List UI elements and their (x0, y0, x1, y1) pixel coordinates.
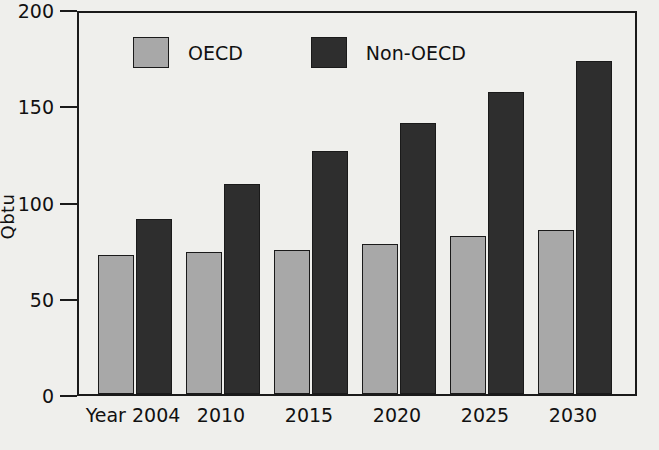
y-axis-tick-label: 0 (2, 387, 54, 406)
x-axis-tick-label: 2015 (285, 404, 333, 426)
bar-non-oecd-2025 (488, 92, 524, 394)
bar-oecd-2025 (450, 236, 486, 394)
x-axis-tick-label: 2030 (549, 404, 597, 426)
y-axis-tick (60, 395, 77, 397)
x-axis-tick-label: 2025 (461, 404, 509, 426)
y-axis-tick (60, 203, 77, 205)
bar-chart: 050100150200 Qbtu OECD Non-OECD Year 200… (0, 0, 659, 450)
legend-swatch-oecd (133, 37, 169, 68)
bar-non-oecd-year-2004 (136, 219, 172, 394)
x-axis-tick-label: 2020 (373, 404, 421, 426)
y-axis-tick (60, 299, 77, 301)
x-axis-tick-label: Year 2004 (86, 404, 181, 426)
y-axis-title: Qbtu (0, 193, 18, 239)
bar-non-oecd-2015 (312, 151, 348, 394)
bar-non-oecd-2010 (224, 184, 260, 394)
y-axis-tick-label: 200 (2, 2, 54, 21)
bar-oecd-2030 (538, 230, 574, 394)
y-axis-tick (60, 10, 77, 12)
bar-oecd-2015 (274, 250, 310, 394)
y-axis-tick-label: 150 (2, 98, 54, 117)
plot-area (77, 11, 637, 396)
y-axis-tick-label: 50 (2, 290, 54, 309)
y-axis-tick (60, 106, 77, 108)
bar-oecd-2010 (186, 252, 222, 394)
chart-legend: OECD Non-OECD (133, 37, 466, 68)
bar-oecd-year-2004 (98, 255, 134, 394)
x-axis-tick-label: 2010 (197, 404, 245, 426)
legend-item-oecd: OECD (133, 37, 243, 68)
legend-swatch-non-oecd (311, 37, 347, 68)
bar-oecd-2020 (362, 244, 398, 394)
legend-label-oecd: OECD (188, 42, 243, 64)
bar-non-oecd-2030 (576, 61, 612, 394)
legend-item-non-oecd: Non-OECD (311, 37, 466, 68)
bar-non-oecd-2020 (400, 123, 436, 394)
legend-label-non-oecd: Non-OECD (366, 42, 466, 64)
